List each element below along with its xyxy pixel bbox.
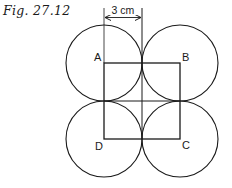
four-circles-diagram: 3 cm A B D C [0,0,232,188]
label-c: C [182,139,190,151]
label-d: D [95,140,103,152]
dimension-label: 3 cm [112,4,135,16]
label-a: A [94,51,102,63]
label-b: B [182,51,189,63]
